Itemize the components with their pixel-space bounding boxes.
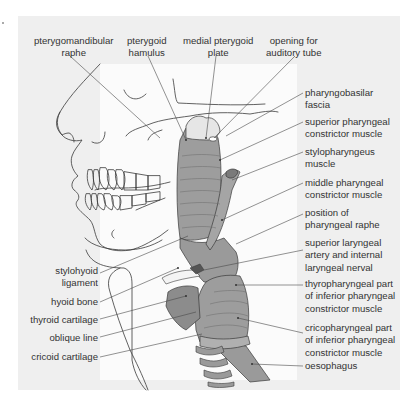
label-pterygoid-hamulus: pterygoid hamulus: [127, 35, 166, 60]
label-line: stylohyoid: [55, 265, 98, 277]
label-line: medial pterygoid: [183, 35, 253, 47]
inferior-constrictor: [195, 275, 248, 345]
superior-pharyngeal-top: [186, 116, 220, 140]
label-line: constrictor muscle: [305, 347, 395, 359]
label-line: thyroid cartilage: [30, 314, 98, 326]
label-line: laryngeal nerval: [305, 262, 382, 274]
label-line: hamulus: [127, 47, 166, 59]
label-line: thyropharyngeal part: [305, 278, 395, 290]
label-line: constrictor muscle: [305, 189, 383, 201]
label-line: oesophagus: [305, 360, 357, 372]
label-line: pterygoid: [127, 35, 166, 47]
mental-foramen: [112, 230, 114, 238]
zygoma-curve: [148, 130, 162, 140]
label-line: constrictor muscle: [305, 128, 390, 140]
label-line: of inferior pharyngeal: [305, 290, 395, 302]
label-line: superior pharyngeal: [305, 116, 390, 128]
label-line: muscle: [305, 158, 375, 170]
label-superior-pharyngeal-constrictor: superior pharyngeal constrictor muscle: [305, 116, 390, 141]
label-line: plate: [183, 47, 253, 59]
temporal-line: [173, 79, 265, 105]
label-pterygomandibular-raphe: pterygomandibular raphe: [34, 35, 113, 60]
label-superior-laryngeal-artery: superior laryngeal artery and internal l…: [305, 237, 382, 274]
label-line: constrictor muscle: [305, 303, 395, 315]
label-cricopharyngeal-part: cricopharyngeal part of inferior pharyng…: [305, 322, 395, 359]
thyroid-cartilage: [166, 286, 200, 330]
lower-teeth: [85, 192, 160, 210]
mandible-lower: [85, 238, 162, 250]
neck-inner: [108, 268, 148, 390]
label-line: cricopharyngeal part: [305, 322, 395, 334]
label-line: superior laryngeal: [305, 237, 382, 249]
label-stylohyoid-ligament: stylohyoid ligament: [55, 265, 98, 290]
label-line: of inferior pharyngeal: [305, 334, 395, 346]
label-oesophagus: oesophagus: [305, 360, 357, 372]
label-opening-auditory-tube: opening for auditory tube: [266, 35, 321, 60]
label-hyoid-bone: hyoid bone: [51, 296, 98, 308]
oblique-mandible-line: [136, 198, 165, 210]
label-pharyngeal-raphe: position of pharyngeal raphe: [305, 207, 380, 232]
label-middle-pharyngeal-constrictor: middle pharyngeal constrictor muscle: [305, 177, 383, 202]
label-line: oblique line: [49, 332, 98, 344]
label-line: ligament: [55, 277, 98, 289]
label-line: opening for: [266, 35, 321, 47]
mandible-upper-line: [95, 182, 170, 190]
label-medial-pterygoid-plate: medial pterygoid plate: [183, 35, 253, 60]
label-line: position of: [305, 207, 380, 219]
nostril: [92, 132, 105, 143]
label-line: middle pharyngeal: [305, 177, 383, 189]
skull-outline: [57, 64, 168, 251]
label-thyroid-cartilage: thyroid cartilage: [30, 314, 98, 326]
label-cricoid-cartilage: cricoid cartilage: [31, 351, 98, 363]
label-line: pharyngeal raphe: [305, 219, 380, 231]
label-line: pharyngobasilar: [305, 87, 373, 99]
label-line: raphe: [34, 47, 113, 59]
label-line: hyoid bone: [51, 296, 98, 308]
label-line: pterygomandibular: [34, 35, 113, 47]
auditory-tube-opening: [209, 137, 217, 141]
orbit-curve: [124, 90, 146, 99]
label-line: stylopharyngeus: [305, 146, 375, 158]
label-pharyngobasilar-fascia: pharyngobasilar fascia: [305, 87, 373, 112]
label-line: cricoid cartilage: [31, 351, 98, 363]
label-thyropharyngeal-part: thyropharyngeal part of inferior pharyng…: [305, 278, 395, 315]
label-line: fascia: [305, 99, 373, 111]
label-line: artery and internal: [305, 249, 382, 261]
label-oblique-line: oblique line: [49, 332, 98, 344]
label-stylopharyngeus-muscle: stylopharyngeus muscle: [305, 146, 375, 171]
label-line: auditory tube: [266, 47, 321, 59]
upper-teeth: [87, 168, 160, 190]
